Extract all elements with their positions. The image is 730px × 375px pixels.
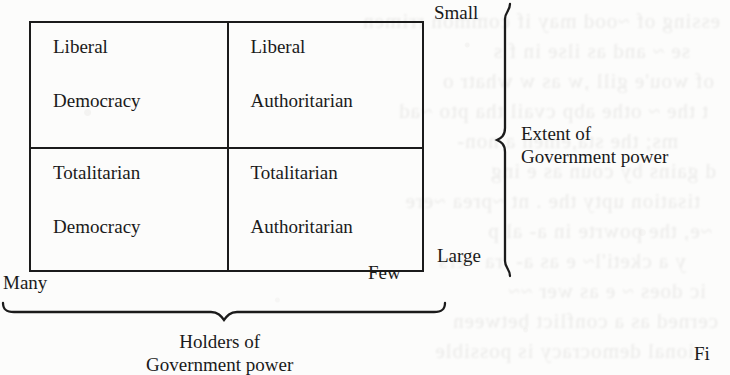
vertical-axis-top-label: Small <box>434 2 478 23</box>
cell-label-line2: Authoritarian <box>251 90 423 111</box>
vertical-axis-caption-line2: Government power <box>521 145 668 168</box>
vertical-axis-caption: Extent of Government power <box>521 122 668 168</box>
show-through-line: ic does ~ e as wer ~~ <box>507 276 706 306</box>
cell-label-line1: Liberal <box>53 36 227 57</box>
matrix-cell-top-right: Liberal Authoritarian <box>227 23 423 147</box>
cell-label-line2: Democracy <box>53 90 227 111</box>
government-typology-matrix: Liberal Democracy Liberal Authoritarian … <box>29 21 424 272</box>
vertical-axis-brace-icon <box>488 2 514 278</box>
cell-label-line1: Liberal <box>251 36 423 57</box>
horizontal-axis-caption-line1: Holders of <box>146 330 293 353</box>
cell-label-line1: Totalitarian <box>251 162 423 183</box>
show-through-line: ional democracy is possible <box>434 336 694 366</box>
figure-caption-fragment: Fi <box>694 343 710 364</box>
show-through-line: cerned as a conflict between <box>452 306 718 336</box>
cell-label-line2: Authoritarian <box>251 216 423 237</box>
horizontal-axis-brace-icon <box>0 292 458 328</box>
horizontal-axis-left-label: Many <box>3 272 47 293</box>
scanned-book-page: essing of ~ood may if common rrimen se ~… <box>0 0 730 375</box>
show-through-line: of wou'e gill ,w as w whatr o <box>442 66 714 96</box>
matrix-cell-top-left: Liberal Democracy <box>31 23 227 147</box>
matrix-cell-bottom-right: Totalitarian Authoritarian <box>227 147 423 271</box>
horizontal-axis-caption: Holders of Government power <box>146 330 293 375</box>
show-through-line: ~e, the powrte in a- al p <box>487 216 712 246</box>
vertical-axis-caption-line1: Extent of <box>521 122 668 145</box>
show-through-line: tisation upty the . nt ~prea ~ere <box>405 186 700 216</box>
vertical-axis-bottom-label: Large <box>437 245 481 266</box>
matrix-cell-bottom-left: Totalitarian Democracy <box>31 147 227 271</box>
cell-label-line1: Totalitarian <box>53 162 227 183</box>
show-through-line: se ~ and as ilse in f s <box>493 36 690 66</box>
cell-label-line2: Democracy <box>53 216 227 237</box>
horizontal-axis-caption-line2: Government power <box>146 353 293 375</box>
horizontal-axis-right-label: Few <box>368 262 401 283</box>
